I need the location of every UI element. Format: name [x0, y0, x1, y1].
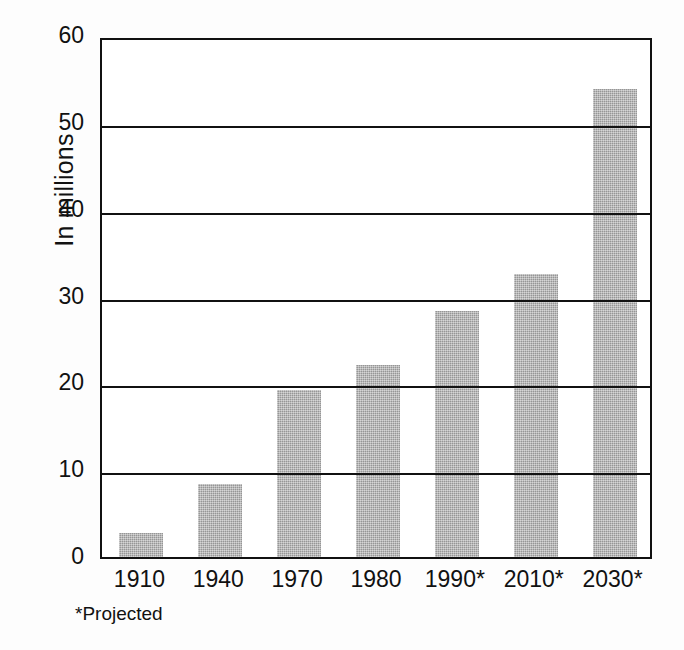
y-tick-label: 60: [58, 22, 84, 49]
bar: [356, 365, 400, 557]
bar: [198, 484, 242, 557]
y-tick-label: 0: [71, 543, 84, 570]
footnote-projected: *Projected: [75, 603, 163, 625]
x-tick-label: 1980: [350, 566, 401, 593]
x-tick-label: 1990*: [425, 566, 485, 593]
bar-chart-figure: In millions 0102030405060 19101940197019…: [0, 0, 684, 650]
bar: [593, 89, 637, 557]
x-tick-label: 1970: [272, 566, 323, 593]
y-tick-label: 10: [58, 456, 84, 483]
gridline: [102, 213, 650, 215]
y-tick-label: 40: [58, 196, 84, 223]
x-tick-label: 2030*: [583, 566, 643, 593]
x-axis-tick-labels: 19101940197019801990*2010*2030*: [100, 566, 652, 606]
x-tick-label: 1910: [114, 566, 165, 593]
x-tick-label: 2010*: [504, 566, 564, 593]
plot-area: [100, 38, 652, 559]
y-tick-label: 20: [58, 369, 84, 396]
gridline: [102, 386, 650, 388]
bar: [435, 311, 479, 557]
x-tick-label: 1940: [193, 566, 244, 593]
y-tick-label: 50: [58, 109, 84, 136]
bar: [119, 533, 163, 557]
y-tick-label: 30: [58, 283, 84, 310]
y-axis-tick-labels: 0102030405060: [0, 0, 92, 650]
gridline: [102, 300, 650, 302]
bar: [514, 274, 558, 557]
gridline: [102, 126, 650, 128]
bars-layer: [102, 40, 650, 557]
gridline: [102, 473, 650, 475]
